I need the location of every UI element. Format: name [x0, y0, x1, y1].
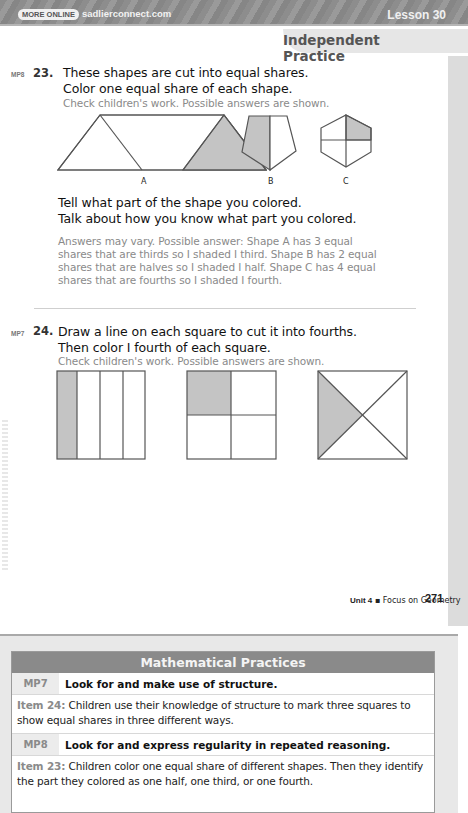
practice-row: MP8 Look for and express regularity in r… [12, 734, 434, 756]
square-diagonals [318, 371, 407, 459]
answer-text: shares that are thirds so I shaded I thi… [58, 248, 377, 260]
shape-c-hexagon [321, 115, 371, 167]
item-ref: Item 24: [17, 699, 65, 711]
question-text: Then color I fourth of each square. [58, 340, 271, 355]
practices-title: Mathematical Practices [12, 652, 434, 673]
shape-label-a: A [141, 177, 146, 186]
answer-text: shares that are fourths so I shaded I fo… [58, 274, 282, 286]
square-vertical-fourths [57, 371, 145, 459]
copyright-margin-text [2, 420, 8, 570]
squares-figure [0, 365, 468, 465]
practice-row: MP7 Look for and make use of structure. [12, 673, 434, 695]
question-number: 24. [33, 324, 53, 338]
square-quadrants [187, 371, 276, 459]
page-number: 271 [425, 592, 443, 604]
answer-text: Answers may vary. Possible answer: Shape… [58, 235, 353, 247]
practice-description: Item 23: Children color one equal share … [12, 756, 434, 795]
shapes-figure [0, 0, 468, 200]
answer-text: shares that are halves so I shaded I hal… [58, 261, 376, 273]
shape-label-b: B [268, 177, 274, 186]
item-ref: Item 23: [17, 760, 65, 772]
practice-description: Item 24: Children use their knowledge of… [12, 695, 434, 734]
question-divider [34, 308, 416, 309]
item-desc: Children use their knowledge of structur… [17, 699, 411, 726]
practice-code: MP8 [12, 734, 59, 755]
page-footer: Unit 4 ▪ Focus on Geometry [350, 596, 461, 605]
question-text: Draw a line on each square to cut it int… [58, 324, 357, 339]
practice-code: MP7 [12, 673, 59, 694]
practices-table: Mathematical Practices MP7 Look for and … [11, 651, 435, 813]
shape-a-trapezoid [58, 115, 266, 170]
mp-tag: MP7 [11, 330, 24, 337]
unit-topic: Focus on Geometry [383, 596, 461, 605]
practice-title: Look for and express regularity in repea… [59, 734, 390, 755]
footer-separator: ▪ [372, 596, 383, 605]
shape-label-c: C [343, 177, 349, 186]
unit-label: Unit 4 [350, 596, 372, 605]
practice-title: Look for and make use of structure. [59, 673, 277, 694]
followup-text: Tell what part of the shape you colored. [58, 195, 302, 210]
item-desc: Children color one equal share of differ… [17, 760, 423, 787]
followup-text: Talk about how you know what part you co… [58, 211, 356, 226]
